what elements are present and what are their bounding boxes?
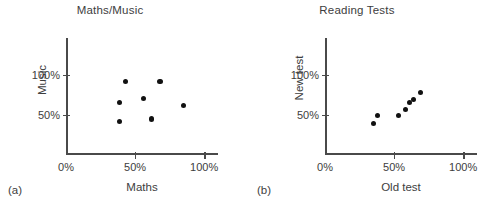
x-tick-label: 0% — [317, 161, 333, 173]
data-point — [375, 113, 380, 118]
plot-area-b: New test Old test 50%100% 0%50%100% — [325, 38, 477, 155]
x-tick-label: 0% — [58, 161, 74, 173]
panel-a: Maths/Music Music Maths 50%100% 0%50%100… — [0, 0, 249, 212]
x-axis-line-a — [66, 153, 218, 155]
x-axis-title-b: Old test — [381, 181, 421, 193]
x-tick-mark — [135, 152, 136, 159]
y-tick-label: 100% — [291, 69, 319, 81]
data-point — [411, 97, 416, 102]
figure-two-scatter-panels: Maths/Music Music Maths 50%100% 0%50%100… — [0, 0, 498, 212]
data-point — [371, 121, 376, 126]
x-tick-mark — [204, 152, 205, 159]
x-axis-title-a: Maths — [126, 181, 157, 193]
x-tick-label: 50% — [124, 161, 146, 173]
panel-label-a: (a) — [8, 184, 22, 196]
y-tick-label: 50% — [297, 109, 319, 121]
x-tick-mark — [394, 152, 395, 159]
data-point — [141, 96, 146, 101]
y-axis-line-a — [66, 38, 68, 155]
x-tick-mark — [463, 152, 464, 159]
panel-label-b: (b) — [257, 184, 271, 196]
x-tick-label: 100% — [449, 161, 477, 173]
data-point — [157, 79, 162, 84]
caption-cut-off — [6, 207, 492, 212]
y-tick-label: 50% — [38, 109, 60, 121]
data-point — [418, 90, 423, 95]
data-point — [403, 107, 408, 112]
y-tick-mark — [63, 75, 70, 76]
data-point — [117, 100, 122, 105]
data-point — [396, 113, 401, 118]
data-point — [123, 79, 128, 84]
panel-b: Reading Tests New test Old test 50%100% … — [249, 0, 498, 212]
y-tick-mark — [322, 75, 329, 76]
chart-title-b: Reading Tests — [257, 4, 457, 16]
y-tick-label: 100% — [32, 69, 60, 81]
y-axis-line-b — [325, 38, 327, 155]
x-tick-label: 50% — [383, 161, 405, 173]
x-axis-line-b — [325, 153, 477, 155]
x-tick-label: 100% — [190, 161, 218, 173]
data-point — [149, 116, 154, 121]
plot-area-a: Music Maths 50%100% 0%50%100% — [66, 38, 218, 155]
chart-title-a: Maths/Music — [10, 4, 210, 16]
data-point — [181, 103, 186, 108]
y-tick-mark — [322, 115, 329, 116]
y-tick-mark — [63, 115, 70, 116]
data-point — [117, 119, 122, 124]
